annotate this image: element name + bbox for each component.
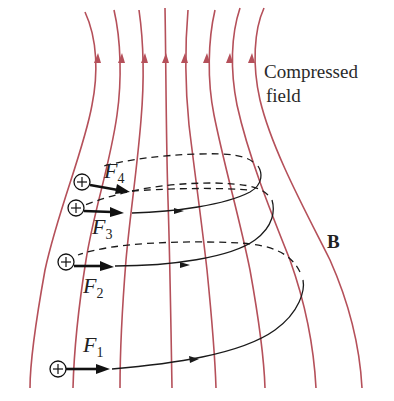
compressed-field-label-line1: Compressed [264, 61, 358, 82]
force-arrowhead-2 [100, 261, 114, 271]
field-line-3 [120, 10, 143, 388]
field-symbol-label: B [327, 231, 340, 252]
field-line-6 [209, 10, 265, 388]
force-label-3: F3 [91, 214, 112, 242]
trajectory-back-2 [85, 183, 268, 205]
trajectory-front-2 [115, 200, 273, 266]
force-arrowhead-3 [110, 207, 124, 217]
field-arrow-3 [141, 53, 148, 63]
particle-trajectory [78, 154, 303, 369]
trajectory-front-1 [112, 280, 303, 369]
force-label-2: F2 [82, 273, 103, 301]
force-label-1: F1 [82, 332, 103, 360]
compressed-field-label-line2: field [266, 85, 301, 106]
charge-1 [50, 361, 110, 377]
field-line-4 [165, 8, 172, 388]
force-arrow-4 [90, 185, 118, 190]
trajectory-arrow-1 [189, 356, 199, 363]
field-line-5 [186, 10, 216, 388]
field-arrow-5 [181, 53, 188, 63]
force-arrow-3 [84, 211, 112, 212]
trajectory-arrow-2 [180, 262, 190, 268]
magnetic-mirror-diagram: F1 F2 F3 F4 Compressed field B [0, 0, 394, 401]
field-arrow-4 [162, 53, 169, 63]
force-arrowhead-1 [96, 364, 110, 374]
field-arrow-8 [248, 53, 255, 63]
trajectory-back-3 [100, 154, 253, 167]
